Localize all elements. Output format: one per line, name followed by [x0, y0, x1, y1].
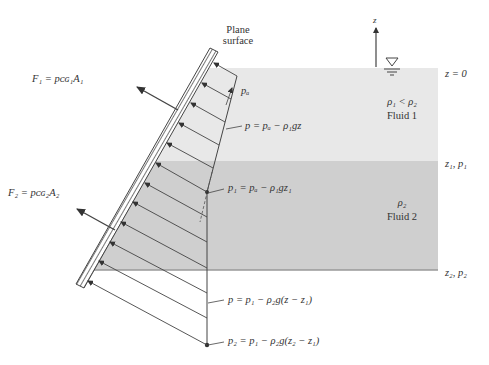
- fluid1-label: ρ₁ < ρ₂ Fluid 1: [372, 97, 432, 121]
- z0-label: z = 0: [445, 69, 467, 80]
- force1-arrow: [137, 87, 178, 110]
- fluid2-label: ρ₂ Fluid 2: [372, 198, 432, 222]
- z-axis-label: z: [373, 16, 377, 25]
- fluid2-name: Fluid 2: [372, 212, 432, 223]
- fluid2-density: ρ₂: [372, 198, 432, 209]
- fluid1-density: ρ₁ < ρ₂: [372, 97, 432, 108]
- eq-p2: p₂ = p₁ − ρ₂g(z₂ − z₁): [228, 336, 319, 347]
- z1p1-label: z₁, p₁: [445, 159, 467, 170]
- pa-label: pₐ: [241, 86, 249, 97]
- plane-surface-label-line1: Plane: [218, 25, 258, 36]
- fluid1-name: Fluid 1: [372, 111, 432, 122]
- force2-label: F₂ = pᴄɢ₂A₂: [8, 188, 59, 199]
- eq-fluid2: p = p₁ − ρ₂g(z − z₁): [228, 295, 312, 306]
- eq-fluid1: p = pₐ − ρ₁gz: [245, 121, 301, 132]
- force1-label: F₁ = pᴄɢ₁A₁: [32, 74, 83, 85]
- plane-surface-label-line2: surface: [218, 36, 258, 47]
- force2-arrow: [77, 209, 115, 230]
- plane-surface-label: Plane surface: [218, 25, 258, 46]
- eq-p1: p₁ = pₐ − ρ₁gz₁: [228, 183, 292, 194]
- z2p2-label: z₂, p₂: [445, 268, 467, 279]
